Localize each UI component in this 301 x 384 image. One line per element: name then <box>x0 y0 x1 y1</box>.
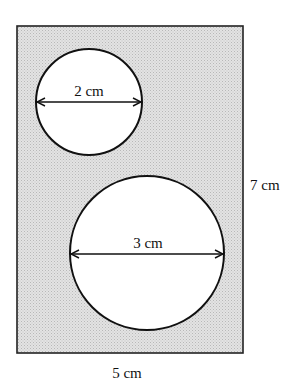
diagram-canvas: 2 cm 3 cm 7 cm 5 cm <box>0 0 301 384</box>
small-circle: 2 cm <box>36 49 142 155</box>
width-label: 5 cm <box>112 365 142 381</box>
small-diameter-label: 2 cm <box>74 83 104 99</box>
large-circle: 3 cm <box>70 176 224 330</box>
height-label: 7 cm <box>250 177 280 193</box>
large-diameter-label: 3 cm <box>133 235 163 251</box>
